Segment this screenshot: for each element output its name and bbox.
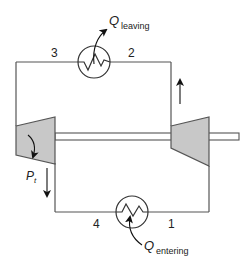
svg-text:Q: Q [109, 13, 119, 28]
heat-entering-label: Q entering [144, 238, 189, 256]
svg-text:leaving: leaving [121, 21, 150, 31]
state-point-1: 1 [168, 217, 175, 231]
compressor [171, 117, 209, 166]
svg-text:P: P [26, 169, 34, 183]
heat-addition-exchanger [116, 196, 148, 228]
shaft [55, 133, 239, 140]
svg-text:Q: Q [144, 238, 154, 253]
svg-text:t: t [34, 176, 37, 185]
brayton-cycle-diagram: 3 2 4 1 Q leaving Q entering P t [0, 0, 252, 266]
heat-leaving-label: Q leaving [109, 13, 150, 31]
turbine-power-label: P t [26, 169, 37, 185]
state-point-3: 3 [51, 46, 58, 60]
turbine [16, 117, 55, 164]
state-point-2: 2 [128, 46, 135, 60]
state-point-4: 4 [93, 217, 100, 231]
svg-text:entering: entering [156, 246, 189, 256]
